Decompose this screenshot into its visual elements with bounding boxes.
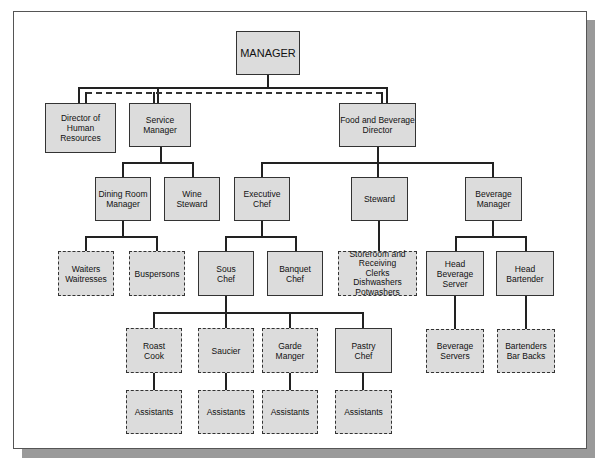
- node-assistants-garde: Assistants: [262, 390, 318, 434]
- node-beverage-manager: Beverage Manager: [465, 177, 522, 221]
- node-head-beverage-server: Head Beverage Server: [426, 251, 484, 296]
- node-assistants-roast: Assistants: [126, 390, 182, 434]
- node-service-manager: Service Manager: [129, 103, 191, 147]
- node-head-bartender: Head Bartender: [496, 251, 554, 296]
- node-buspersons: Buspersons: [129, 251, 185, 296]
- node-sous-chef: Sous Chef: [198, 251, 254, 296]
- node-executive-chef: Executive Chef: [234, 177, 290, 221]
- node-bartenders-bar-backs: Bartenders Bar Backs: [497, 329, 555, 373]
- node-manager: MANAGER: [236, 31, 300, 75]
- chart-page: [13, 11, 587, 449]
- node-dining-room-manager: Dining Room Manager: [95, 177, 151, 221]
- node-saucier: Saucier: [198, 328, 254, 373]
- node-banquet-chef: Banquet Chef: [267, 251, 323, 296]
- node-roast-cook: Roast Cook: [126, 328, 182, 373]
- node-director-human-resources: Director of Human Resources: [45, 103, 116, 153]
- node-waiters-waitresses: Waiters Waitresses: [58, 251, 114, 296]
- node-garde-manger: Garde Manger: [262, 328, 318, 373]
- node-assistants-saucier: Assistants: [198, 390, 254, 434]
- node-wine-steward: Wine Steward: [164, 177, 220, 221]
- node-storeroom-clerks: Storeroom and Receiving Clerks Dishwashe…: [338, 251, 417, 296]
- node-beverage-servers: Beverage Servers: [426, 329, 484, 373]
- node-food-beverage-director: Food and Beverage Director: [339, 103, 416, 147]
- node-steward: Steward: [351, 177, 408, 221]
- node-assistants-pastry: Assistants: [335, 390, 392, 434]
- node-pastry-chef: Pastry Chef: [335, 328, 392, 373]
